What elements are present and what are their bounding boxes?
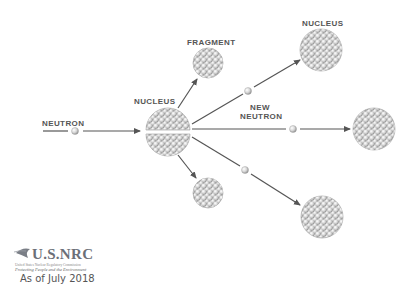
nucleus-right-label: NUCLEUS (302, 19, 342, 28)
arrow-to-fragment-bottom (178, 155, 196, 178)
new-neutron-particle-bottom (242, 167, 249, 174)
fragment-label: FRAGMENT (187, 38, 231, 47)
nucleus-center-label: NUCLEUS (134, 97, 172, 106)
target-nucleus-bottom (301, 196, 343, 238)
cut-off-title: Nuclear Fission (17, 0, 127, 2)
new-neutron-particle-middle (290, 126, 297, 133)
new-neutron-label: NEW NEUTRON (240, 103, 280, 121)
fragment-bottom (193, 178, 223, 208)
date-footer: As of July 2018 (20, 273, 95, 284)
arrow-to-fragment-top (178, 79, 197, 108)
nrc-logo-icon (14, 249, 30, 259)
logo-tagline: Protecting People and the Environment (15, 267, 86, 272)
target-nucleus-top (300, 29, 342, 71)
new-neutron-label-line2: NEUTRON (240, 112, 280, 121)
target-nucleus-middle (353, 108, 395, 150)
neutron-particle (72, 128, 79, 135)
central-nucleus (146, 108, 190, 156)
logo-name: U.S.NRC (32, 246, 93, 263)
new-neutron-label-line1: NEW (240, 103, 280, 112)
new-neutron-particle-top (245, 88, 252, 95)
fragment-top (193, 48, 223, 78)
neutron-label: NEUTRON (42, 119, 76, 128)
